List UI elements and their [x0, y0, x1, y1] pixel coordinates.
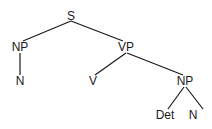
node-n-subject: N — [16, 75, 25, 87]
edge-vp-np — [127, 53, 183, 75]
edge-np-det — [168, 87, 184, 109]
node-np-object: NP — [177, 75, 194, 87]
tree-edges — [0, 0, 212, 129]
edge-vp-v — [95, 53, 126, 75]
node-n-object: N — [189, 109, 198, 121]
node-vp: VP — [118, 41, 134, 53]
edge-np-n2 — [186, 87, 203, 109]
node-np-subject: NP — [12, 41, 29, 53]
edge-s-vp — [71, 21, 123, 41]
node-det: Det — [156, 109, 175, 121]
node-s: S — [67, 10, 75, 22]
node-v: V — [89, 75, 97, 87]
edge-s-np — [23, 21, 71, 41]
syntax-tree-diagram: S NP N VP V NP Det N — [0, 0, 212, 129]
